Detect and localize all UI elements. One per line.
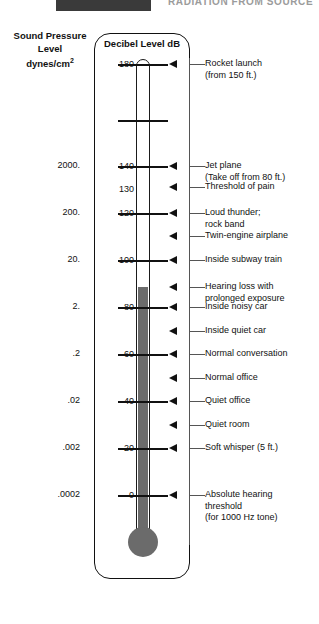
callout-quiet-office: Quiet office xyxy=(205,395,319,407)
cropped-page-header: RADIATION FROM SOURCE xyxy=(0,0,319,16)
decibel-thermometer-figure: Sound Pressure Level dynes/cm2 2000. 200… xyxy=(0,16,319,601)
callout-jet-plane: Jet plane (Take off from 80 ft.) xyxy=(205,160,319,183)
leader-inside-subway-train xyxy=(189,260,205,261)
callout-soft-whisper: Soft whisper (5 ft.) xyxy=(205,442,319,454)
callout-absolute-hearing-threshold-line1: Absolute hearing xyxy=(205,489,273,499)
pressure-label-200: 200. xyxy=(10,207,80,217)
callout-quiet-office-line1: Quiet office xyxy=(205,395,250,405)
leader-quiet-office xyxy=(189,401,205,402)
leader-twin-engine-airplane xyxy=(189,236,205,237)
callout-rail xyxy=(189,58,190,545)
header-heading-text: RADIATION FROM SOURCE xyxy=(168,0,318,8)
callout-inside-subway-train-line1: Inside subway train xyxy=(205,254,282,264)
callout-rocket-launch-line2: (from 150 ft.) xyxy=(205,70,257,80)
callout-hearing-loss-line1: Hearing loss with xyxy=(205,281,274,291)
callout-absolute-hearing-threshold-line2: threshold xyxy=(205,501,242,511)
db-label-0: 0 xyxy=(100,490,134,500)
header-black-block xyxy=(56,0,151,11)
db-label-130: 130 xyxy=(100,184,134,194)
callout-loud-thunder: Loud thunder; rock band xyxy=(205,207,319,230)
leader-quiet-room xyxy=(189,425,205,426)
callout-quiet-room-line1: Quiet room xyxy=(205,419,250,429)
callout-jet-plane-line2: (Take off from 80 ft.) xyxy=(205,172,285,182)
leader-inside-noisy-car xyxy=(189,307,205,308)
leader-inside-quiet-car xyxy=(189,331,205,332)
arrow-loud-thunder xyxy=(169,209,177,217)
callout-inside-quiet-car: Inside quiet car xyxy=(205,325,319,337)
pressure-label-20: 20. xyxy=(10,254,80,264)
arrow-absolute-hearing-threshold xyxy=(169,491,177,499)
arrow-jet-plane xyxy=(169,162,177,170)
arrow-normal-conversation xyxy=(169,350,177,358)
arrow-hearing-loss xyxy=(169,283,177,291)
arrow-inside-subway-train xyxy=(169,256,177,264)
callout-rocket-launch-line1: Rocket launch xyxy=(205,58,262,68)
callout-normal-conversation-line1: Normal conversation xyxy=(205,348,288,358)
pressure-label-2000: 2000. xyxy=(10,160,80,170)
leader-normal-office xyxy=(189,378,205,379)
db-label-80: 80 xyxy=(100,302,134,312)
callout-inside-subway-train: Inside subway train xyxy=(205,254,319,266)
callout-normal-conversation: Normal conversation xyxy=(205,348,319,360)
callout-threshold-of-pain-line1: Threshold of pain xyxy=(205,181,275,191)
left-axis-title-line1: Sound Pressure xyxy=(14,30,87,41)
callout-threshold-of-pain: Threshold of pain xyxy=(205,181,319,193)
arrow-inside-noisy-car xyxy=(169,303,177,311)
db-label-140: 140 xyxy=(100,161,134,171)
decibel-axis-title: Decibel Level dB xyxy=(96,38,188,49)
pressure-label-0p0002: .0002 xyxy=(10,489,80,499)
callout-jet-plane-line1: Jet plane xyxy=(205,160,242,170)
db-label-20: 20 xyxy=(100,443,134,453)
callout-loud-thunder-line2: rock band xyxy=(205,219,245,229)
callout-inside-noisy-car-line1: Inside noisy car xyxy=(205,301,268,311)
leader-jet-plane xyxy=(189,166,205,167)
arrow-soft-whisper xyxy=(169,444,177,452)
arrow-normal-office xyxy=(169,374,177,382)
tick-160 xyxy=(118,120,168,122)
arrow-quiet-office xyxy=(169,397,177,405)
callout-inside-quiet-car-line1: Inside quiet car xyxy=(205,325,266,335)
left-axis-title: Sound Pressure Level dynes/cm2 xyxy=(4,30,96,71)
pressure-label-2: 2. xyxy=(10,301,80,311)
db-label-180: 180 xyxy=(100,59,134,69)
left-axis-title-exponent: 2 xyxy=(70,57,74,64)
callout-soft-whisper-line1: Soft whisper (5 ft.) xyxy=(205,442,278,452)
leader-threshold-of-pain xyxy=(189,187,205,188)
mercury-fill xyxy=(138,287,149,539)
callout-inside-noisy-car: Inside noisy car xyxy=(205,301,319,313)
callout-twin-engine-airplane-line1: Twin-engine airplane xyxy=(205,230,288,240)
arrow-rocket-launch xyxy=(169,60,177,68)
leader-normal-conversation xyxy=(189,354,205,355)
callout-normal-office: Normal office xyxy=(205,372,319,384)
pressure-label-0p2: .2 xyxy=(10,348,80,358)
db-label-60: 60 xyxy=(100,349,134,359)
arrow-threshold-of-pain xyxy=(169,183,177,191)
callout-normal-office-line1: Normal office xyxy=(205,372,258,382)
db-label-120: 120 xyxy=(100,208,134,218)
callout-loud-thunder-line1: Loud thunder; xyxy=(205,207,261,217)
arrow-inside-quiet-car xyxy=(169,327,177,335)
leader-soft-whisper xyxy=(189,448,205,449)
leader-absolute-hearing-threshold xyxy=(189,495,205,496)
callout-absolute-hearing-threshold: Absolute hearing threshold (for 1000 Hz … xyxy=(205,489,319,524)
pressure-label-0p002: .002 xyxy=(10,442,80,452)
callout-absolute-hearing-threshold-line3: (for 1000 Hz tone) xyxy=(205,512,278,522)
left-axis-title-line3: dynes/cm xyxy=(26,58,70,69)
arrow-twin-engine-airplane xyxy=(169,232,177,240)
callout-rocket-launch: Rocket launch (from 150 ft.) xyxy=(205,58,319,81)
pressure-label-0p02: .02 xyxy=(10,395,80,405)
db-label-40: 40 xyxy=(100,396,134,406)
leader-rocket-launch xyxy=(189,64,205,65)
left-axis-title-line2: Level xyxy=(38,43,62,54)
callout-quiet-room: Quiet room xyxy=(205,419,319,431)
leader-loud-thunder xyxy=(189,213,205,214)
leader-hearing-loss xyxy=(189,287,205,288)
callout-twin-engine-airplane: Twin-engine airplane xyxy=(205,230,319,242)
db-label-100: 100 xyxy=(100,255,134,265)
arrow-quiet-room xyxy=(169,421,177,429)
thermometer-bulb xyxy=(128,527,158,557)
